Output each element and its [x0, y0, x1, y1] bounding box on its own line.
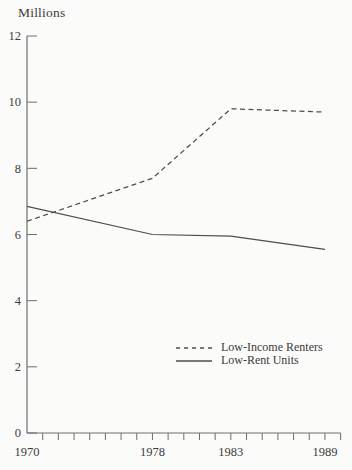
x-tick-label: 1970 — [15, 445, 40, 459]
y-tick-label: 8 — [15, 162, 21, 176]
y-tick-label: 12 — [9, 29, 22, 43]
x-tick-label: 1989 — [312, 445, 337, 459]
solid-line-sample-icon — [175, 355, 213, 367]
x-tick-label: 1978 — [140, 445, 165, 459]
y-tick-label: 10 — [9, 95, 22, 109]
y-tick-label: 4 — [15, 294, 22, 308]
plot-area: 0246810121970197819831989 — [0, 0, 352, 470]
line-chart: Millions 0246810121970197819831989 Low-I… — [0, 0, 352, 470]
dashed-line-sample-icon — [175, 342, 213, 354]
legend-item-low-rent-units: Low-Rent Units — [175, 354, 323, 367]
legend-label-low-rent-units: Low-Rent Units — [221, 353, 299, 368]
x-tick-label: 1983 — [218, 445, 243, 459]
series-line-1 — [27, 206, 325, 249]
legend: Low-Income Renters Low-Rent Units — [175, 341, 323, 367]
y-tick-label: 2 — [15, 360, 21, 374]
series-line-0 — [27, 109, 325, 221]
y-tick-label: 0 — [15, 426, 21, 440]
y-tick-label: 6 — [15, 228, 21, 242]
